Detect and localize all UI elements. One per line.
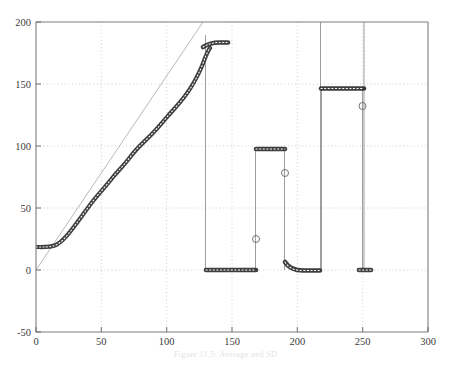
x-tick-label: 100 <box>159 336 175 347</box>
x-tick-label: 200 <box>289 336 305 347</box>
figure-container: 200 150 100 50 0 -50 0 50 100 150 200 25… <box>0 0 451 367</box>
x-tick-labels: 0 50 100 150 200 250 300 <box>33 336 436 347</box>
figure-caption: Figure 11.5: Average and SD <box>0 349 451 367</box>
x-tick-label: 50 <box>96 336 107 347</box>
y-tick-label: 100 <box>15 141 31 152</box>
chart-canvas: 200 150 100 50 0 -50 0 50 100 150 200 25… <box>0 0 451 367</box>
y-tick-label: 200 <box>15 17 31 28</box>
x-tick-label: 250 <box>355 336 371 347</box>
x-tick-label: 300 <box>420 336 436 347</box>
y-tick-label: -50 <box>17 327 31 338</box>
x-tick-label: 150 <box>224 336 240 347</box>
y-tick-label: 150 <box>15 79 31 90</box>
y-tick-label: 0 <box>26 265 31 276</box>
y-tick-labels: 200 150 100 50 0 -50 <box>15 17 31 338</box>
x-tick-label: 0 <box>33 336 38 347</box>
y-tick-label: 50 <box>21 203 32 214</box>
